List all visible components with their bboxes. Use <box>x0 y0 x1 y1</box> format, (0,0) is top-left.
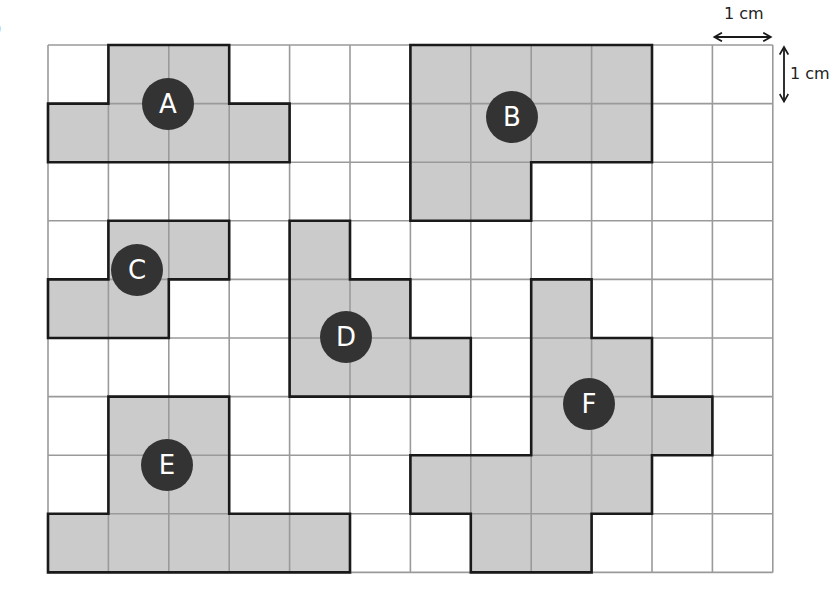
shape-e-cell <box>169 514 229 573</box>
shape-b-cell <box>592 45 652 104</box>
shape-e-cell <box>290 514 350 573</box>
shape-f-cell <box>471 514 531 573</box>
grid-diagram: ABCDEF <box>0 0 834 612</box>
shape-e-cell <box>229 514 289 573</box>
shape-e-label: E <box>159 450 175 480</box>
shape-c-cell <box>169 221 229 280</box>
shape-c-cell <box>48 279 108 338</box>
shapes-grid-figure: ) ABCDEF 1 cm 1 cm <box>0 0 834 612</box>
vertical-scale-label: 1 cm <box>790 64 830 83</box>
shape-c-label: C <box>128 255 146 285</box>
shape-f-cell <box>592 455 652 514</box>
shape-d-label: D <box>336 322 356 352</box>
shape-f-cell <box>531 455 591 514</box>
shape-b-cell <box>410 45 470 104</box>
shape-f-label: F <box>582 389 597 419</box>
shape-b-cell <box>471 162 531 221</box>
shape-b-label: B <box>503 102 521 132</box>
shape-e-cell <box>48 514 108 573</box>
shape-a-label: A <box>159 89 177 119</box>
shape-e-cell <box>108 514 168 573</box>
shape-b-cell <box>410 162 470 221</box>
shape-f-cell <box>471 455 531 514</box>
shape-b-cell <box>531 104 591 163</box>
shape-f-cell <box>652 397 712 456</box>
shape-f-cell <box>531 279 591 338</box>
shape-d-cell <box>290 221 350 280</box>
shape-f-cell <box>410 455 470 514</box>
shape-b-cell <box>410 104 470 163</box>
shape-a-cell <box>48 104 108 163</box>
horizontal-scale-label: 1 cm <box>724 4 764 23</box>
shape-f-cell <box>531 514 591 573</box>
shape-d-cell <box>410 338 470 397</box>
shape-a-cell <box>229 104 289 163</box>
shape-b-cell <box>531 45 591 104</box>
shape-b-cell <box>592 104 652 163</box>
